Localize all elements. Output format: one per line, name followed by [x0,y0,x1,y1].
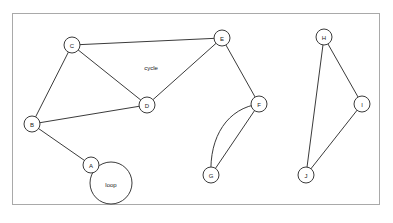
cycle-annotation-label: cycle [144,65,158,71]
node-label-b: B [30,122,34,128]
node-label-e: E [220,36,224,42]
node-b[interactable]: B [24,116,40,132]
graph-canvas: A B C D E F G [0,0,393,223]
node-g[interactable]: G [203,167,219,183]
node-label-c: C [70,43,75,49]
node-e[interactable]: E [214,30,230,46]
node-j[interactable]: J [298,167,314,183]
node-h[interactable]: H [316,29,332,45]
node-f[interactable]: F [251,96,267,112]
loop-annotation-label: loop [105,182,117,188]
node-a[interactable]: A [83,157,99,173]
graph-figure: A B C D E F G [0,0,393,223]
node-label-a: A [89,163,93,169]
node-label-f: F [257,102,261,108]
node-label-g: G [209,173,214,179]
node-label-d: D [145,103,150,109]
node-d[interactable]: D [139,97,155,113]
node-c[interactable]: C [64,37,80,53]
node-label-h: H [322,35,326,41]
node-label-j: J [305,173,308,179]
node-i[interactable]: I [354,96,370,112]
